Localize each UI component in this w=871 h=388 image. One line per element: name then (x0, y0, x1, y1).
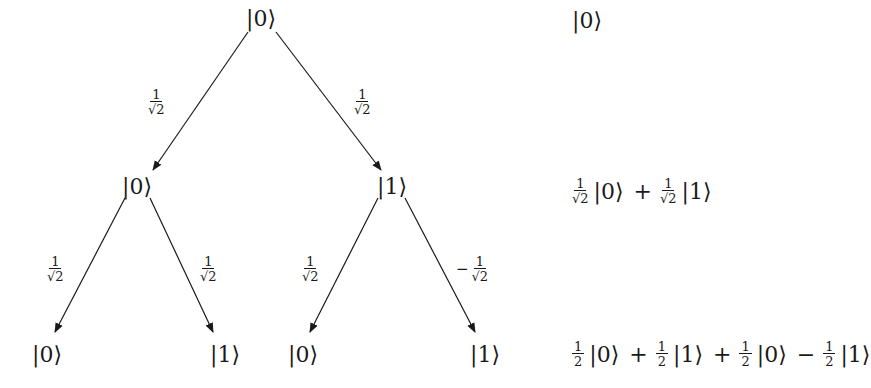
node-level2-1: |1⟩ (210, 344, 240, 366)
edge-l1-1-to-l2-2 (310, 198, 378, 332)
weight-root-l1-0: 1√2 (148, 88, 165, 116)
node-level1-1: |1⟩ (377, 176, 407, 198)
node-level2-3: |1⟩ (470, 344, 500, 366)
node-level2-0: |0⟩ (32, 344, 62, 366)
edge-l1-0-to-l2-0 (55, 198, 125, 332)
state-level1: 1√2 |0⟩ + 1√2 |1⟩ (572, 177, 714, 205)
node-level2-2: |0⟩ (288, 344, 318, 366)
node-root: |0⟩ (246, 8, 276, 30)
edge-root-to-l1-0 (153, 32, 248, 170)
state-level2: 12 |0⟩ + 12 |1⟩ + 12 |0⟩ − 12 |1⟩ (572, 340, 871, 368)
weight-l1-0-l2-0: 1√2 (47, 255, 64, 283)
weight-root-l1-1: 1√2 (354, 88, 371, 116)
node-level1-0: |0⟩ (122, 176, 152, 198)
weight-l1-1-l2-2: 1√2 (302, 255, 319, 283)
state-level0: |0⟩ (572, 8, 602, 33)
weight-l1-1-l2-3: − 1√2 (456, 255, 488, 283)
weight-l1-0-l2-1: 1√2 (200, 255, 217, 283)
